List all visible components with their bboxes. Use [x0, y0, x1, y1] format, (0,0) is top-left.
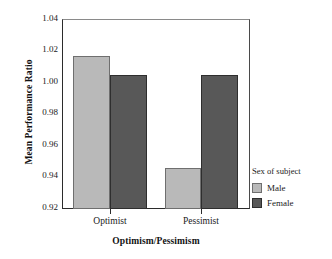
bar-pessimist-male — [165, 168, 201, 209]
x-category-label-optimist: Optimist — [65, 216, 155, 226]
bar-chart-figure: Mean Performance Ratio 1.04 1.02 1.00 0.… — [0, 0, 332, 259]
legend-swatch-male-icon — [252, 183, 262, 193]
x-axis-tick — [201, 209, 202, 214]
y-tick-label-5: 0.96 — [24, 140, 58, 149]
bar-optimist-female — [110, 75, 147, 209]
legend: Sex of subject Male Female — [252, 166, 332, 210]
y-tick-label-7: 0.92 — [24, 203, 58, 212]
legend-item-male: Male — [252, 180, 332, 195]
legend-title: Sex of subject — [252, 166, 332, 177]
y-tick-label-4: 0.98 — [24, 108, 58, 117]
legend-label-male: Male — [267, 183, 286, 193]
y-tick-label-3: 1.00 — [24, 77, 58, 86]
y-tick-label-6: 0.94 — [24, 171, 58, 180]
x-category-label-pessimist: Pessimist — [156, 216, 246, 226]
y-tick-label-1: 1.04 — [24, 14, 58, 23]
bar-pessimist-female — [201, 75, 238, 209]
legend-swatch-female-icon — [252, 198, 262, 208]
x-axis-title: Optimism/Pessimism — [62, 236, 250, 246]
bar-optimist-male — [73, 56, 110, 209]
x-axis-tick — [110, 209, 111, 214]
legend-label-female: Female — [267, 198, 294, 208]
legend-item-female: Female — [252, 195, 332, 210]
y-tick-label-2: 1.02 — [24, 45, 58, 54]
